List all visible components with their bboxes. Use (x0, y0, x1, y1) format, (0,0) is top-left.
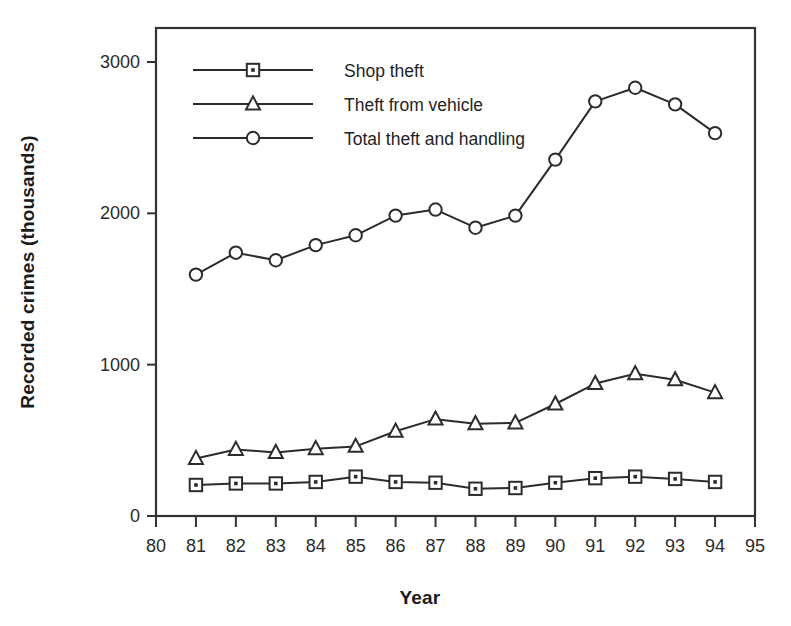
chart-figure: Recorded crimes (thousands) Year 0100020… (0, 0, 791, 626)
legend-marker-center (251, 68, 255, 72)
data-point-marker (389, 209, 401, 221)
x-tick-label: 81 (186, 536, 206, 556)
legend-item-2[interactable]: Theft from vehicle (193, 95, 483, 115)
data-point-marker (549, 153, 561, 165)
line-chart: Recorded crimes (thousands) Year 0100020… (0, 0, 791, 626)
x-tick-label: 89 (505, 536, 525, 556)
data-point-marker (509, 209, 521, 221)
chart-legend: Shop theftTheft from vehicleTotal theft … (193, 61, 525, 149)
y-tick-label: 2000 (100, 203, 140, 223)
data-point-marker-center (633, 475, 637, 479)
data-point-marker-center (474, 487, 478, 491)
legend-item-3[interactable]: Total theft and handling (193, 129, 525, 149)
data-point-marker-center (514, 486, 518, 490)
y-tick-label: 3000 (100, 52, 140, 72)
data-point-marker (270, 254, 282, 266)
x-tick-label: 83 (266, 536, 286, 556)
x-axis-tick-labels: 80818283848586878889909192939495 (146, 536, 765, 556)
x-axis-title: Year (400, 587, 441, 608)
x-tick-label: 82 (226, 536, 246, 556)
data-point-marker (229, 442, 243, 455)
data-point-marker (349, 229, 361, 241)
y-axis-title: Recorded crimes (thousands) (17, 135, 38, 409)
data-point-marker-center (554, 481, 558, 485)
data-point-marker (190, 268, 202, 280)
data-point-marker (429, 412, 443, 425)
x-tick-label: 86 (386, 536, 406, 556)
x-axis-ticks (156, 516, 755, 527)
data-point-marker (589, 95, 601, 107)
data-point-marker-center (234, 482, 238, 486)
legend-item-1[interactable]: Shop theft (193, 61, 424, 81)
data-point-marker (230, 246, 242, 258)
data-point-marker (629, 82, 641, 94)
data-point-marker (628, 366, 642, 379)
y-tick-label: 0 (130, 506, 140, 526)
series-2 (189, 366, 722, 464)
series-1 (190, 470, 722, 495)
y-tick-label: 1000 (100, 355, 140, 375)
x-tick-label: 85 (346, 536, 366, 556)
data-point-marker-center (354, 475, 358, 479)
x-tick-label: 95 (745, 536, 765, 556)
data-point-marker-center (713, 480, 717, 484)
legend-label: Shop theft (344, 61, 424, 81)
legend-label: Theft from vehicle (344, 95, 483, 115)
x-tick-label: 84 (306, 536, 326, 556)
x-tick-label: 87 (426, 536, 446, 556)
x-tick-label: 91 (585, 536, 605, 556)
legend-label: Total theft and handling (344, 129, 525, 149)
data-point-marker-center (314, 480, 318, 484)
data-point-marker (669, 98, 681, 110)
data-point-marker-center (434, 481, 438, 485)
legend-marker (247, 132, 259, 144)
legend-marker (246, 96, 260, 109)
x-tick-label: 94 (705, 536, 725, 556)
x-tick-label: 88 (465, 536, 485, 556)
x-tick-label: 92 (625, 536, 645, 556)
data-point-marker-center (394, 480, 398, 484)
data-point-marker-center (274, 482, 278, 486)
data-point-marker (469, 222, 481, 234)
series-line (196, 88, 715, 275)
data-point-marker (548, 396, 562, 409)
x-tick-label: 80 (146, 536, 166, 556)
data-point-marker (429, 203, 441, 215)
data-point-marker-center (673, 477, 677, 481)
y-axis-ticks (147, 62, 156, 516)
data-point-marker-center (593, 476, 597, 480)
data-point-marker (310, 239, 322, 251)
series-line (196, 374, 715, 459)
data-point-marker (508, 415, 522, 428)
data-point-marker-center (194, 483, 198, 487)
data-point-marker (709, 127, 721, 139)
x-tick-label: 90 (545, 536, 565, 556)
y-axis-tick-labels: 0100020003000 (100, 52, 140, 526)
x-tick-label: 93 (665, 536, 685, 556)
